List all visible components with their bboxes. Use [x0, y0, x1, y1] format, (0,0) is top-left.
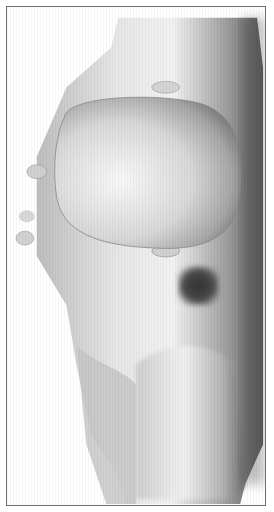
body-render	[7, 7, 265, 505]
figure-frame	[6, 6, 266, 506]
leg-shape	[136, 346, 245, 499]
nub-left-3	[16, 231, 34, 245]
shadow-edge	[241, 18, 265, 484]
bulge-shape	[55, 97, 242, 248]
nub-top	[152, 81, 180, 93]
nub-left-1	[27, 165, 47, 179]
dark-marker	[178, 266, 220, 306]
nub-left-2	[19, 210, 35, 222]
